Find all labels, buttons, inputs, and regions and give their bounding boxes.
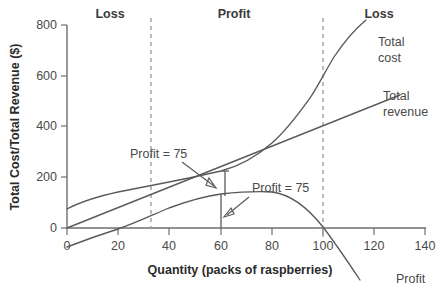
x-axis <box>67 228 426 235</box>
chart-container: 0 200 400 600 800 0 20 40 60 80 100 120 … <box>0 0 440 292</box>
series-label-total-cost-line1: Total <box>378 35 404 49</box>
chart-svg: 0 200 400 600 800 0 20 40 60 80 100 120 … <box>0 0 440 292</box>
x-tick-label-120: 120 <box>364 239 385 253</box>
region-label-loss-left: Loss <box>95 7 124 21</box>
annotation-lower-arrowhead <box>224 208 234 217</box>
y-tick-label-600: 600 <box>36 69 57 83</box>
x-tick-label-40: 40 <box>162 239 176 253</box>
y-tick-label-0: 0 <box>50 221 57 235</box>
x-tick-label-100: 100 <box>313 239 334 253</box>
x-tick-label-60: 60 <box>214 239 228 253</box>
x-tick-label-20: 20 <box>111 239 125 253</box>
annotation-upper-arrowhead <box>206 178 216 188</box>
y-tick-label-400: 400 <box>36 119 57 133</box>
x-tick-label-80: 80 <box>265 239 279 253</box>
series-label-total-revenue-line1: Total <box>383 89 409 103</box>
y-axis-title: Total Cost/Total Revenue ($) <box>8 44 22 211</box>
annotation-profit-75-upper: Profit = 75 <box>130 147 229 196</box>
annotation-lower-text: Profit = 75 <box>252 181 309 195</box>
x-tick-label-140: 140 <box>415 239 436 253</box>
series-label-total-revenue-line2: revenue <box>383 105 428 119</box>
series-label-total-cost-line2: cost <box>378 51 401 65</box>
y-tick-label-800: 800 <box>36 18 57 32</box>
region-label-profit: Profit <box>218 7 251 21</box>
series-total-revenue <box>67 95 400 228</box>
annotation-upper-text: Profit = 75 <box>130 147 187 161</box>
annotation-profit-75-lower: Profit = 75 <box>221 181 309 228</box>
region-label-loss-right: Loss <box>364 7 393 21</box>
series-total-cost <box>67 20 366 209</box>
y-tick-label-200: 200 <box>36 170 57 184</box>
y-axis <box>61 25 67 228</box>
x-axis-title: Quantity (packs of raspberries) <box>148 263 333 277</box>
series-label-profit: Profit <box>396 272 426 286</box>
